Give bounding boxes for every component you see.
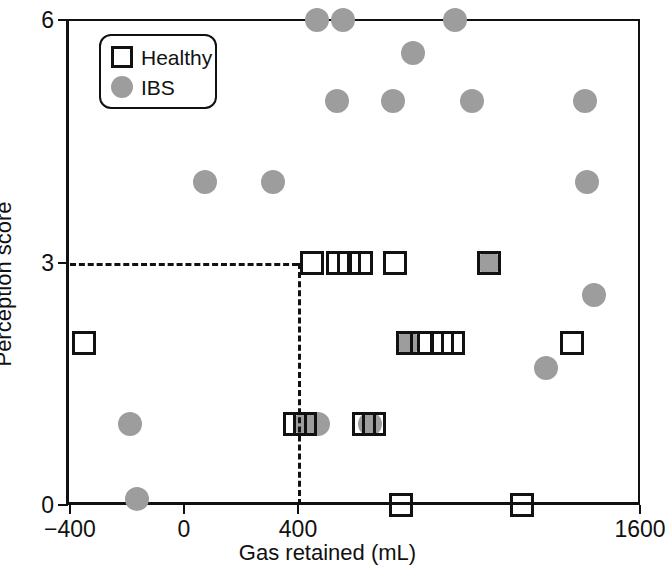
data-point-ibs-10	[575, 170, 599, 194]
data-point-ibs-12	[582, 283, 606, 307]
data-point-ibs-15	[118, 412, 142, 436]
data-point-healthy-15	[362, 412, 386, 436]
data-point-ibs-7	[573, 89, 597, 113]
data-point-healthy-17	[510, 493, 534, 517]
data-point-healthy-6	[72, 331, 96, 355]
threshold-horizontal	[70, 263, 298, 266]
data-point-ibs-4	[325, 89, 349, 113]
data-point-ibs-3	[401, 41, 425, 65]
legend-item-healthy: Healthy	[111, 42, 215, 72]
data-point-ibs-1	[331, 8, 355, 32]
legend-label-ibs: IBS	[141, 77, 175, 98]
data-point-ibs-8	[193, 170, 217, 194]
threshold-vertical	[298, 263, 301, 505]
open-square-icon	[111, 46, 133, 68]
x-tick-label-3: 1600	[614, 518, 665, 541]
x-tick-3	[639, 505, 641, 514]
y-tick-label-1: 3	[32, 251, 54, 274]
x-tick-2	[297, 505, 299, 514]
y-tick-label-0: 0	[32, 494, 54, 517]
x-tick-label-2: 400	[279, 518, 317, 541]
data-point-ibs-5	[381, 89, 405, 113]
data-point-healthy-11	[560, 331, 584, 355]
x-tick-label-1: 0	[178, 518, 191, 541]
x-tick-1	[183, 505, 185, 514]
data-point-ibs-6	[460, 89, 484, 113]
x-tick-label-0: −400	[44, 518, 96, 541]
y-tick-0	[58, 504, 68, 506]
y-tick-2	[58, 19, 68, 21]
data-point-ibs-2	[443, 8, 467, 32]
data-point-healthy-4	[383, 251, 407, 275]
data-point-ibs-9	[261, 170, 285, 194]
data-point-healthy-3	[349, 251, 373, 275]
y-axis-title: Perception score	[0, 201, 17, 366]
data-point-healthy-5	[477, 251, 501, 275]
data-point-healthy-13	[293, 412, 317, 436]
chart-legend: Healthy IBS	[99, 34, 217, 109]
data-point-ibs-14	[534, 356, 558, 380]
y-tick-1	[58, 262, 68, 264]
legend-item-ibs: IBS	[111, 72, 215, 102]
legend-label-healthy: Healthy	[141, 47, 212, 68]
data-point-ibs-0	[305, 8, 329, 32]
x-tick-0	[69, 505, 71, 514]
x-axis-title: Gas retained (mL)	[239, 540, 416, 566]
data-point-healthy-10	[441, 331, 465, 355]
y-tick-label-2: 6	[32, 9, 54, 32]
data-point-healthy-0	[300, 251, 324, 275]
data-point-ibs-19	[125, 487, 149, 511]
data-point-healthy-16	[389, 493, 413, 517]
filled-circle-icon	[111, 76, 133, 98]
